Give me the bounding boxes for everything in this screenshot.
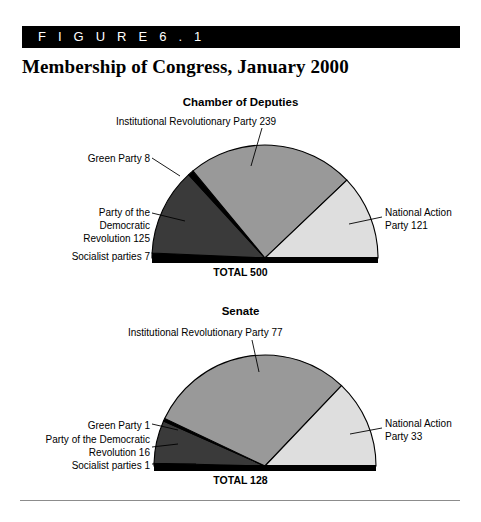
pan-label: National Action Party 33 bbox=[385, 417, 481, 443]
footer-rule bbox=[20, 500, 460, 501]
chart-baseline bbox=[154, 465, 376, 471]
senate-chart bbox=[152, 340, 382, 471]
chart-heading: Chamber of Deputies bbox=[0, 96, 481, 108]
pan-label: National Action Party 121 bbox=[385, 206, 481, 232]
socialist-label: Socialist parties 7 bbox=[18, 250, 150, 263]
pri-label: Institutional Revolutionary Party 239 bbox=[116, 115, 406, 128]
prd-label: Party of the Democratic Revolution 125 bbox=[30, 206, 150, 245]
socialist-label: Socialist parties 1 bbox=[18, 459, 150, 472]
chart-baseline bbox=[152, 257, 378, 263]
chamber-of-deputies-chart bbox=[152, 128, 382, 263]
chart-total-label: TOTAL 128 bbox=[0, 474, 481, 486]
green-label: Green Party 8 bbox=[30, 152, 150, 165]
pri-label: Institutional Revolutionary Party 77 bbox=[128, 326, 408, 339]
prd-label: Party of the Democratic Revolution 16 bbox=[12, 433, 150, 459]
green-label: Green Party 1 bbox=[30, 419, 150, 432]
chart-total-label: TOTAL 500 bbox=[0, 266, 481, 278]
chart-heading: Senate bbox=[0, 305, 481, 317]
green-leader bbox=[152, 158, 180, 176]
